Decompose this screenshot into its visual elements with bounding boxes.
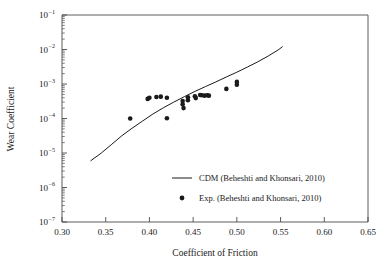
x-axis-title: Coefficient of Friction [172, 248, 258, 258]
data-point [181, 106, 186, 111]
data-point [158, 94, 163, 99]
x-tick-label: 0.65 [360, 227, 376, 237]
x-tick-label: 0.45 [185, 227, 201, 237]
y-tick-label: 10 [39, 79, 49, 89]
y-tick-exponent: −2 [49, 43, 55, 49]
x-tick-label: 0.60 [316, 227, 332, 237]
y-tick-exponent: −5 [49, 147, 55, 153]
y-tick-label: 10 [39, 148, 49, 158]
x-tick-label: 0.30 [54, 227, 70, 237]
x-tick-label: 0.55 [273, 227, 289, 237]
data-point [235, 82, 240, 87]
x-tick-label: 0.50 [229, 227, 245, 237]
data-point [147, 95, 152, 100]
x-tick-label: 0.35 [98, 227, 114, 237]
y-axis-title: Wear Coefficient [6, 86, 16, 151]
y-tick-label: 10 [39, 45, 49, 55]
wear-coefficient-scatter-chart: 10−710−610−510−410−310−210−1 0.300.350.4… [0, 0, 385, 265]
y-tick-exponent: −4 [49, 112, 55, 118]
y-tick-exponent: −7 [49, 216, 55, 222]
chart-background [0, 0, 385, 265]
y-tick-exponent: −3 [49, 78, 55, 84]
y-tick-exponent: −6 [49, 181, 55, 187]
data-point [193, 96, 198, 101]
data-point [180, 102, 185, 107]
y-tick-label: 10 [39, 114, 49, 124]
y-tick-label: 10 [39, 183, 49, 193]
data-point [186, 98, 191, 103]
data-point [154, 95, 159, 100]
x-tick-label: 0.40 [142, 227, 158, 237]
legend-circle-marker [180, 196, 185, 201]
legend-label: Exp. (Beheshti and Khonsari, 2010) [199, 193, 321, 203]
y-tick-exponent: −1 [49, 9, 55, 15]
data-point [165, 95, 170, 100]
y-tick-label: 10 [39, 217, 49, 227]
data-point [207, 93, 212, 98]
y-tick-label: 10 [39, 10, 49, 20]
legend-label: CDM (Beheshti and Khonsari, 2010) [199, 173, 325, 183]
data-point [165, 116, 170, 121]
data-point [224, 87, 229, 92]
figure-container: 10−710−610−510−410−310−210−1 0.300.350.4… [0, 0, 385, 265]
data-point [128, 116, 133, 121]
